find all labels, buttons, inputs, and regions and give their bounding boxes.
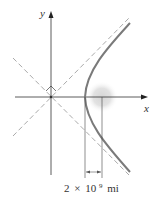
distance-exponent: 9 xyxy=(99,182,103,190)
hyperbola-diagram: y x 2 × 10 9 mi xyxy=(0,0,156,202)
x-axis-arrow-icon xyxy=(141,95,148,100)
origin-point xyxy=(50,96,53,99)
asymptote-ascending xyxy=(13,18,129,136)
distance-base: 10 xyxy=(85,182,97,194)
asymptote-descending xyxy=(13,58,129,175)
dimension-arrow-left-icon xyxy=(86,171,90,174)
y-axis-label: y xyxy=(39,7,45,19)
distance-times: × xyxy=(74,182,80,194)
distance-label: 2 × 10 9 mi xyxy=(64,178,119,194)
distance-unit: mi xyxy=(107,182,119,194)
distance-coef: 2 xyxy=(64,182,70,194)
dimension-arrow-right-icon xyxy=(97,171,101,174)
x-axis-label: x xyxy=(143,102,149,114)
y-axis-arrow-icon xyxy=(49,11,54,18)
